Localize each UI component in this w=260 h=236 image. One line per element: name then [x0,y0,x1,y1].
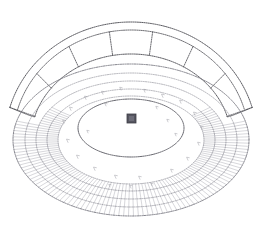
center-marker [127,114,136,123]
amphitheater-diagram [0,0,260,236]
drawing-canvas: Amphitheater Site Plan [0,0,260,236]
arena-floor-ellipse [78,99,184,157]
center-marker-inner [129,116,134,121]
arena-floor-boundary [78,99,184,157]
